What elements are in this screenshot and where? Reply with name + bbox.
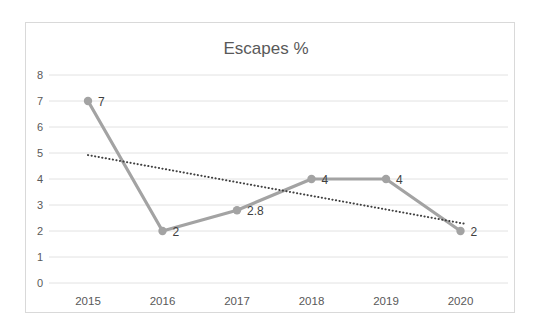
data-point-label: 2: [173, 225, 180, 239]
data-point-label: 4: [322, 173, 329, 187]
y-tick-label: 7: [37, 95, 43, 107]
y-tick-label: 2: [37, 225, 43, 237]
chart-title: Escapes %: [223, 39, 308, 58]
trendline-group: [88, 155, 466, 224]
data-point-label: 4: [396, 173, 403, 187]
data-point-marker: [307, 175, 315, 183]
y-tick-label: 5: [37, 147, 43, 159]
line-chart: Escapes % 012345678 20152016201720182019…: [25, 22, 515, 313]
data-point-label: 2: [471, 225, 478, 239]
page: Escapes % 012345678 20152016201720182019…: [0, 0, 540, 333]
x-tick-label: 2017: [224, 295, 250, 307]
gridlines: [49, 75, 508, 283]
y-tick-label: 3: [37, 199, 43, 211]
x-axis-labels: 201520162017201820192020: [75, 295, 473, 307]
y-tick-label: 6: [37, 121, 43, 133]
y-tick-label: 4: [37, 173, 43, 185]
y-axis-labels: 012345678: [37, 69, 43, 289]
trendline: [88, 155, 466, 224]
data-point-marker: [456, 227, 464, 235]
y-tick-label: 1: [37, 251, 43, 263]
data-point-label: 2.8: [247, 204, 264, 218]
x-tick-label: 2020: [448, 295, 474, 307]
y-tick-label: 0: [37, 277, 43, 289]
data-point-marker: [84, 97, 92, 105]
x-tick-label: 2018: [299, 295, 325, 307]
chart-canvas: Escapes % 012345678 20152016201720182019…: [26, 23, 514, 312]
data-point-marker: [233, 206, 241, 214]
x-tick-label: 2015: [75, 295, 101, 307]
x-tick-label: 2016: [150, 295, 176, 307]
x-tick-label: 2019: [373, 295, 399, 307]
data-point-marker: [158, 227, 166, 235]
data-point-label: 7: [98, 95, 105, 109]
y-tick-label: 8: [37, 69, 43, 81]
data-point-marker: [382, 175, 390, 183]
series-group: [84, 97, 465, 235]
